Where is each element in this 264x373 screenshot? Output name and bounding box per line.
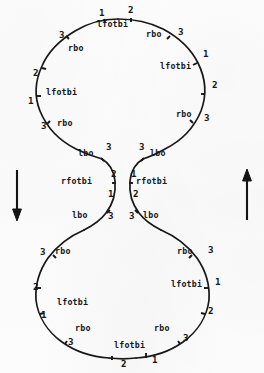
turn-number-lower-left-1: 1: [41, 310, 47, 319]
turn-number-upper-left-3: 3: [59, 30, 65, 39]
tick: [65, 341, 67, 344]
turn-number-lower-right-3b: 3: [183, 333, 189, 342]
tick: [141, 158, 144, 161]
tick: [190, 120, 193, 123]
right-direction-arrow: [243, 169, 252, 220]
edge-label-waist-left-lower: lbo: [72, 211, 88, 219]
edge-label-lower-upper-right: rbo: [177, 247, 193, 255]
tick: [201, 313, 205, 314]
edge-label-upper-lower-left: rbo: [57, 119, 73, 127]
turn-number-upper-left-1: 1: [28, 96, 34, 105]
turn-number-lower-right-2: 2: [208, 306, 214, 315]
turn-number-waist-left-3a: 3: [106, 142, 112, 151]
figure-diagram-canvas: lfotbi rbo rbo lfotbi rbo lfotbi rbo lbo…: [0, 0, 264, 373]
turn-number-waist-right-3a: 3: [139, 142, 145, 151]
turn-number-lower-bottom-2: 2: [121, 359, 127, 368]
turn-number-waist-right-1: 1: [131, 169, 137, 178]
left-direction-arrow: [13, 170, 22, 221]
turn-number-lower-bottom-1: 1: [152, 355, 158, 364]
turn-number-lower-left-3b: 3: [68, 337, 74, 346]
upper-lobe-right-path: [118, 19, 205, 159]
turn-number-lower-right-1: 1: [215, 277, 221, 286]
turn-number-upper-top-2: 2: [128, 5, 134, 14]
tick: [193, 63, 197, 65]
edge-label-waist-right-center: rfotbi: [136, 177, 167, 185]
turn-number-waist-right-3b: 3: [129, 211, 135, 220]
turn-number-upper-left-2: 2: [33, 68, 39, 77]
tick: [42, 68, 46, 69]
tick: [167, 36, 170, 39]
skating-trace-svg: [0, 0, 264, 373]
edge-label-waist-right-upper: lbo: [150, 149, 166, 157]
edge-label-upper-upper-left: rbo: [68, 44, 84, 52]
turn-number-waist-left-1: 1: [108, 189, 114, 198]
edge-label-waist-right-lower: lbo: [143, 211, 159, 219]
turn-number-waist-left-2: 2: [111, 169, 117, 178]
turn-number-upper-right-2: 2: [212, 80, 218, 89]
edge-label-upper-lower-right: rbo: [176, 110, 192, 118]
turn-number-upper-ll-3: 3: [41, 121, 47, 130]
edge-label-lower-lower-right: rbo: [154, 324, 170, 332]
turn-number-lower-right-3a: 3: [208, 245, 214, 254]
tick: [47, 121, 50, 124]
turn-number-upper-right-3: 3: [178, 27, 184, 36]
edge-label-waist-left-upper: lbo: [78, 149, 94, 157]
turn-number-upper-top-1: 1: [99, 8, 105, 17]
edge-label-lower-bottom: lfotbi: [114, 341, 145, 349]
turn-number-upper-lr-3: 3: [204, 113, 210, 122]
turn-number-lower-left-2: 2: [33, 282, 39, 291]
edge-label-lower-upper-left: rbo: [55, 247, 71, 255]
turn-number-upper-right-1: 1: [203, 49, 209, 58]
lower-lobe-right-path: [136, 230, 209, 358]
tick: [178, 341, 180, 344]
tick: [66, 36, 69, 39]
turn-number-lower-left-3a: 3: [40, 247, 46, 256]
edge-label-waist-left-center: rfotbi: [61, 177, 92, 185]
edge-label-upper-right: lfotbi: [160, 62, 191, 70]
edge-label-upper-top-right: rbo: [146, 30, 162, 38]
edge-label-upper-left: lfotbi: [46, 88, 77, 96]
tick: [101, 158, 104, 161]
turn-number-waist-left-3b: 3: [108, 211, 114, 220]
turn-number-waist-right-2: 2: [133, 189, 139, 198]
edge-label-lower-lower-left: rbo: [75, 324, 91, 332]
edge-label-lower-right: lfotbi: [171, 280, 202, 288]
edge-label-lower-left: lfotbi: [57, 298, 88, 306]
edge-label-upper-top-left: lfotbi: [97, 20, 128, 28]
